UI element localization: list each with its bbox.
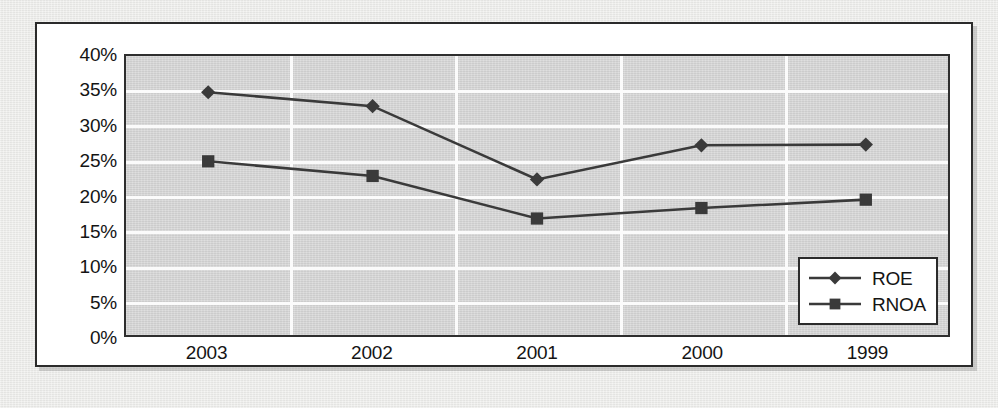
data-point-marker-roe — [201, 85, 215, 99]
legend-label-roe: ROE — [872, 269, 913, 288]
x-axis: 20032002200120001999 — [124, 342, 950, 372]
data-point-marker-rnoa — [860, 194, 872, 206]
data-point-marker-roe — [859, 137, 873, 151]
y-tick-label: 20% — [45, 186, 117, 205]
x-tick-label: 2001 — [516, 342, 557, 364]
y-tick-label: 5% — [45, 292, 117, 311]
data-point-marker-rnoa — [202, 155, 214, 167]
y-tick-label: 35% — [45, 80, 117, 99]
series-line-rnoa — [208, 161, 866, 218]
x-tick-label: 1999 — [847, 342, 888, 364]
legend-square-icon — [808, 294, 862, 314]
chart-legend: ROE RNOA — [798, 257, 938, 325]
data-point-marker-rnoa — [366, 170, 378, 182]
data-point-marker-rnoa — [695, 202, 707, 214]
data-point-marker-roe — [365, 99, 379, 113]
data-point-marker-rnoa — [531, 212, 543, 224]
y-tick-label: 25% — [45, 151, 117, 170]
y-tick-label: 0% — [45, 328, 117, 347]
plot-area: ROE RNOA — [124, 54, 950, 337]
y-tick-label: 10% — [45, 257, 117, 276]
legend-item-rnoa[interactable]: RNOA — [808, 291, 926, 317]
legend-item-roe[interactable]: ROE — [808, 265, 926, 291]
x-tick-label: 2000 — [681, 342, 722, 364]
series-line-roe — [208, 92, 866, 179]
y-tick-label: 30% — [45, 115, 117, 134]
y-tick-label: 40% — [45, 45, 117, 64]
data-point-marker-roe — [694, 138, 708, 152]
legend-label-rnoa: RNOA — [872, 295, 926, 314]
legend-diamond-icon — [808, 268, 862, 288]
x-tick-label: 2002 — [351, 342, 392, 364]
data-point-marker-roe — [530, 172, 544, 186]
y-tick-label: 15% — [45, 221, 117, 240]
x-tick-label: 2003 — [186, 342, 227, 364]
chart-card: 40%35%30%25%20%15%10%5%0% ROE — [35, 22, 973, 367]
y-axis: 40%35%30%25%20%15%10%5%0% — [45, 64, 117, 336]
